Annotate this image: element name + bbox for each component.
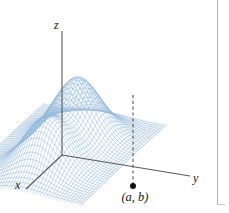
page-rule-foot xyxy=(217,204,225,205)
z-axis-label: z xyxy=(54,19,59,31)
point-label-ab: (a, b) xyxy=(113,191,157,204)
x-axis-line xyxy=(26,155,62,189)
x-axis-label: x xyxy=(15,179,20,191)
point-marker-ab xyxy=(130,183,136,189)
y-axis-label: y xyxy=(193,172,198,184)
y-axis-line xyxy=(62,155,190,176)
surface-plot-figure: z x y (a, b) xyxy=(0,0,229,213)
page-rule-divider xyxy=(217,0,218,205)
